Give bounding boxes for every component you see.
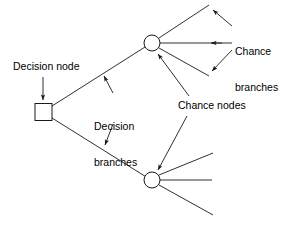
decision-tree-diagram: Decision node Decision branches Chance b… [0,0,293,227]
chance-node-upper-circle [144,35,160,51]
label-decision-branches-line1: Decision [94,120,137,132]
label-chance-nodes: Chance nodes [178,99,246,111]
label-decision-node: Decision node [13,60,80,72]
label-chance-branches-line1: Chance [235,45,278,57]
label-decision-branches-line2: branches [94,156,137,168]
label-decision-branches: Decision branches [94,96,137,192]
chance-node-pointer-lower-arrow [158,116,187,170]
chance-branch-upper-1 [159,5,209,38]
chance-branch-lower-3 [159,185,213,215]
chance-branch-pointer-bottom-arrow [212,50,232,71]
chance-node-pointer-upper-arrow [158,54,189,96]
chance-branch-pointer-top-arrow [213,10,232,26]
decision-node-square [35,104,52,121]
decision-branch-pointer-upper-arrow [104,76,113,93]
chance-branch-lower-1 [159,153,213,175]
chance-node-lower-circle [144,172,160,188]
chance-branch-upper-3 [159,48,209,76]
label-chance-branches-line2: branches [235,81,278,93]
